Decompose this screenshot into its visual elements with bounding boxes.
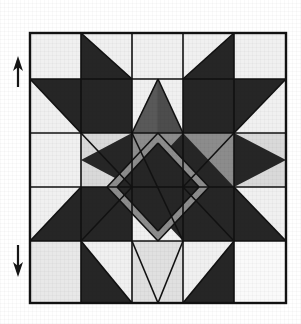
row2-col4-dark-square (183, 79, 234, 133)
row5-col5-base (234, 241, 286, 303)
row5-col1-base (30, 241, 81, 303)
row2-col2-dark-square (81, 79, 132, 133)
row5-col3-base (132, 241, 183, 303)
quilt-block-figure: Quilt block pattern diagram (0, 0, 301, 324)
quilt-block (30, 33, 286, 303)
